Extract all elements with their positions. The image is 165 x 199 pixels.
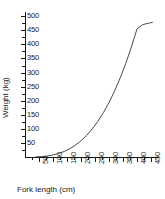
y-axis-tick-label: 500 bbox=[27, 12, 39, 20]
y-axis-minor-tick bbox=[22, 94, 25, 95]
x-axis-tick-label: 450 bbox=[154, 152, 162, 164]
y-axis-tick-label: 50 bbox=[27, 139, 35, 147]
x-axis-minor-tick bbox=[74, 158, 75, 160]
x-axis-tick bbox=[151, 158, 152, 162]
x-axis-minor-tick bbox=[60, 158, 61, 160]
y-axis-tick bbox=[21, 30, 25, 31]
y-axis-tick bbox=[21, 73, 25, 74]
x-axis-minor-tick bbox=[144, 158, 145, 160]
chart-figure: 50100150200250300350400450500 5010015020… bbox=[0, 0, 165, 199]
y-axis-tick bbox=[21, 115, 25, 116]
x-axis-tick bbox=[137, 158, 138, 162]
x-axis-minor-tick bbox=[116, 158, 117, 160]
x-axis-tick bbox=[123, 158, 124, 162]
y-axis-tick bbox=[21, 44, 25, 45]
x-axis-minor-tick bbox=[32, 158, 33, 160]
y-axis-tick-label: 200 bbox=[27, 97, 39, 105]
y-axis-tick-label: 350 bbox=[27, 54, 39, 62]
x-axis-tick bbox=[109, 158, 110, 162]
y-axis-tick bbox=[21, 87, 25, 88]
y-axis-line bbox=[25, 12, 26, 158]
y-axis-tick-label: 150 bbox=[27, 111, 39, 119]
y-axis-minor-tick bbox=[22, 122, 25, 123]
y-axis-minor-tick bbox=[22, 51, 25, 52]
x-axis-tick bbox=[53, 158, 54, 162]
x-axis-minor-tick bbox=[130, 158, 131, 160]
y-axis-minor-tick bbox=[22, 23, 25, 24]
x-axis-title: Fork length (cm) bbox=[17, 186, 75, 194]
y-axis-tick bbox=[21, 143, 25, 144]
y-axis-tick-label: 100 bbox=[27, 125, 39, 133]
y-axis-minor-tick bbox=[22, 136, 25, 137]
y-axis-tick bbox=[21, 129, 25, 130]
x-axis-minor-tick bbox=[46, 158, 47, 160]
x-axis-tick bbox=[39, 158, 40, 162]
y-axis-minor-tick bbox=[22, 150, 25, 151]
x-axis-minor-tick bbox=[88, 158, 89, 160]
x-axis-tick bbox=[95, 158, 96, 162]
y-axis-minor-tick bbox=[22, 37, 25, 38]
y-axis-title: Weight (kg) bbox=[2, 77, 10, 118]
y-axis-tick-label: 250 bbox=[27, 83, 39, 91]
y-axis-tick bbox=[21, 16, 25, 17]
x-axis-tick bbox=[67, 158, 68, 162]
y-axis-tick-label: 450 bbox=[27, 26, 39, 34]
y-axis-tick bbox=[21, 101, 25, 102]
y-axis-minor-tick bbox=[22, 108, 25, 109]
y-axis-tick bbox=[21, 58, 25, 59]
y-axis-tick-label: 300 bbox=[27, 69, 39, 77]
y-axis-minor-tick bbox=[22, 80, 25, 81]
y-axis-tick-label: 400 bbox=[27, 40, 39, 48]
y-axis-minor-tick bbox=[22, 66, 25, 67]
x-axis-tick bbox=[81, 158, 82, 162]
x-axis-minor-tick bbox=[102, 158, 103, 160]
data-curve-path bbox=[36, 22, 152, 156]
